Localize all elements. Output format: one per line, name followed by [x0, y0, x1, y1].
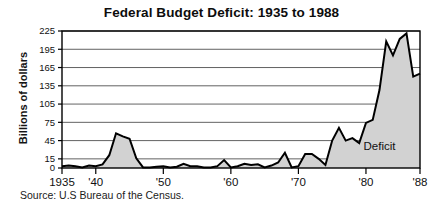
- chart-figure: Federal Budget Deficit: 1935 to 1988 Bil…: [0, 0, 443, 210]
- plot-area: 0154575105135165195225 1935'40'50'60'70'…: [0, 0, 443, 210]
- svg-text:15: 15: [44, 153, 55, 164]
- svg-text:1935: 1935: [49, 176, 75, 188]
- svg-text:45: 45: [44, 135, 55, 146]
- svg-text:225: 225: [39, 25, 55, 36]
- svg-text:'60: '60: [223, 176, 238, 188]
- source-note: Source: U.S Bureau of the Census.: [20, 189, 184, 201]
- y-axis-ticks: 0154575105135165195225: [39, 25, 62, 173]
- x-axis-ticks: 1935'40'50'60'70'80'88: [49, 168, 427, 188]
- svg-text:'70: '70: [291, 176, 306, 188]
- svg-text:165: 165: [39, 62, 55, 73]
- svg-text:'50: '50: [156, 176, 171, 188]
- svg-text:75: 75: [44, 117, 55, 128]
- svg-text:'88: '88: [413, 176, 428, 188]
- annotation-deficit: Deficit: [363, 140, 396, 152]
- svg-text:'40: '40: [88, 176, 103, 188]
- svg-text:105: 105: [39, 98, 55, 109]
- svg-text:135: 135: [39, 80, 55, 91]
- svg-text:'80: '80: [358, 176, 373, 188]
- svg-text:195: 195: [39, 44, 55, 55]
- chart-annotations: Deficit: [363, 140, 396, 152]
